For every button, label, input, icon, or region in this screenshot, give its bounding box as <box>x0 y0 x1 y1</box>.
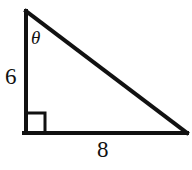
right-angle-square-icon <box>27 113 45 131</box>
triangle-hypotenuse <box>26 11 187 133</box>
vertical-leg-label: 6 <box>5 65 17 88</box>
theta-angle-label: θ <box>31 28 40 47</box>
geometry-figure: 6 8 θ <box>0 0 192 170</box>
horizontal-leg-label: 8 <box>97 138 109 161</box>
right-triangle-drawing <box>0 0 192 170</box>
